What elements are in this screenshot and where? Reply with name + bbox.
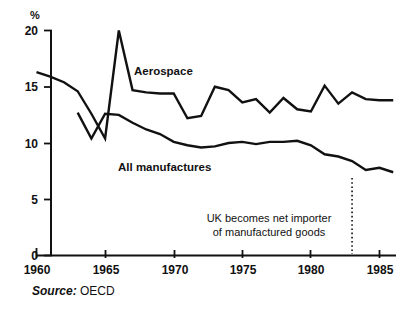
x-tick-label-1980: 1980 [291,264,331,276]
annotation-line-2: of manufactured goods [195,226,343,240]
y-tick-label-5: 5 [14,194,38,206]
y-axis-unit-label: % [30,10,40,21]
x-tick-label-1975: 1975 [223,264,263,276]
series-line-aerospace [37,31,394,139]
chart-canvas [0,0,407,309]
x-tick-label-1985: 1985 [360,264,400,276]
chart-figure: % 20 15 10 5 0 1960 1965 1970 1975 1980 … [0,0,407,309]
y-tick-label-10: 10 [14,138,38,150]
y-tick-label-0: 0 [14,250,38,262]
annotation-line-1: UK becomes net importer [207,212,332,224]
annotation-text: UK becomes net importerof manufactured g… [195,212,343,240]
x-tick-label-1965: 1965 [86,264,126,276]
source-prefix: Source: [32,284,77,298]
x-tick-label-1960: 1960 [17,264,57,276]
source-caption: Source: OECD [32,285,115,297]
series-label-aerospace: Aerospace [134,66,193,78]
source-org: OECD [80,284,115,298]
x-tick-label-1970: 1970 [155,264,195,276]
series-label-all-manufactures: All manufactures [118,162,211,174]
y-tick-label-15: 15 [14,81,38,93]
y-tick-label-20: 20 [14,25,38,37]
